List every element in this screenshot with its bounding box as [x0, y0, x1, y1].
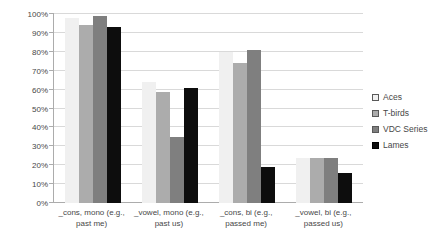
legend-swatch	[372, 94, 379, 101]
bar-aces	[296, 158, 310, 203]
bar-t-birds	[79, 25, 93, 203]
bar-vdc-series	[170, 137, 184, 203]
legend-swatch	[372, 126, 379, 133]
legend: AcesT-birdsVDC SeriesLames	[372, 92, 427, 150]
y-tick-label: 100%	[28, 10, 48, 19]
bar-t-birds	[233, 63, 247, 203]
y-tick-label: 50%	[32, 104, 48, 113]
legend-swatch	[372, 110, 379, 117]
legend-label: Aces	[383, 92, 402, 102]
x-category-label: _cons, mono (e.g., past me)	[53, 208, 130, 229]
y-tick-label: 0%	[36, 199, 48, 208]
x-category-label: _vowel, bi (e.g., passed us)	[285, 208, 362, 229]
bar-lames	[261, 167, 275, 203]
bar-t-birds	[310, 158, 324, 203]
legend-label: T-birds	[383, 108, 409, 118]
y-tick-label: 80%	[32, 47, 48, 56]
y-tick-label: 90%	[32, 28, 48, 37]
bar-group	[131, 14, 208, 203]
bar-group	[54, 14, 131, 203]
legend-swatch	[372, 142, 379, 149]
bar-aces	[219, 52, 233, 203]
bar-lames	[338, 173, 352, 203]
bar-aces	[65, 18, 79, 203]
bar-vdc-series	[93, 16, 107, 203]
legend-label: Lames	[383, 140, 409, 150]
bar-lames	[107, 27, 121, 203]
bar-vdc-series	[324, 158, 338, 203]
bar-groups	[54, 14, 363, 203]
bar-vdc-series	[247, 50, 261, 203]
y-tick-label: 40%	[32, 123, 48, 132]
legend-item: Lames	[372, 140, 427, 150]
legend-label: VDC Series	[383, 124, 427, 134]
bar-aces	[142, 82, 156, 203]
bar-lames	[184, 88, 198, 203]
y-tick-label: 30%	[32, 142, 48, 151]
x-category-label: _vowel, mono (e.g., past us)	[130, 208, 207, 229]
plot-area	[53, 14, 363, 203]
legend-item: T-birds	[372, 108, 427, 118]
legend-item: VDC Series	[372, 124, 427, 134]
y-tick-label: 10%	[32, 180, 48, 189]
bar-group	[209, 14, 286, 203]
bar-chart: 100%90%80%70%60%50%40%30%20%10%0% _cons,…	[0, 0, 439, 242]
bar-t-birds	[156, 92, 170, 204]
x-category-label: _cons, bi (e.g., passed me)	[208, 208, 285, 229]
y-tick-label: 70%	[32, 66, 48, 75]
y-axis: 100%90%80%70%60%50%40%30%20%10%0%	[0, 14, 48, 203]
x-axis: _cons, mono (e.g., past me)_vowel, mono …	[53, 208, 362, 229]
y-tick-label: 60%	[32, 85, 48, 94]
legend-item: Aces	[372, 92, 427, 102]
y-tick-label: 20%	[32, 161, 48, 170]
bar-group	[286, 14, 363, 203]
